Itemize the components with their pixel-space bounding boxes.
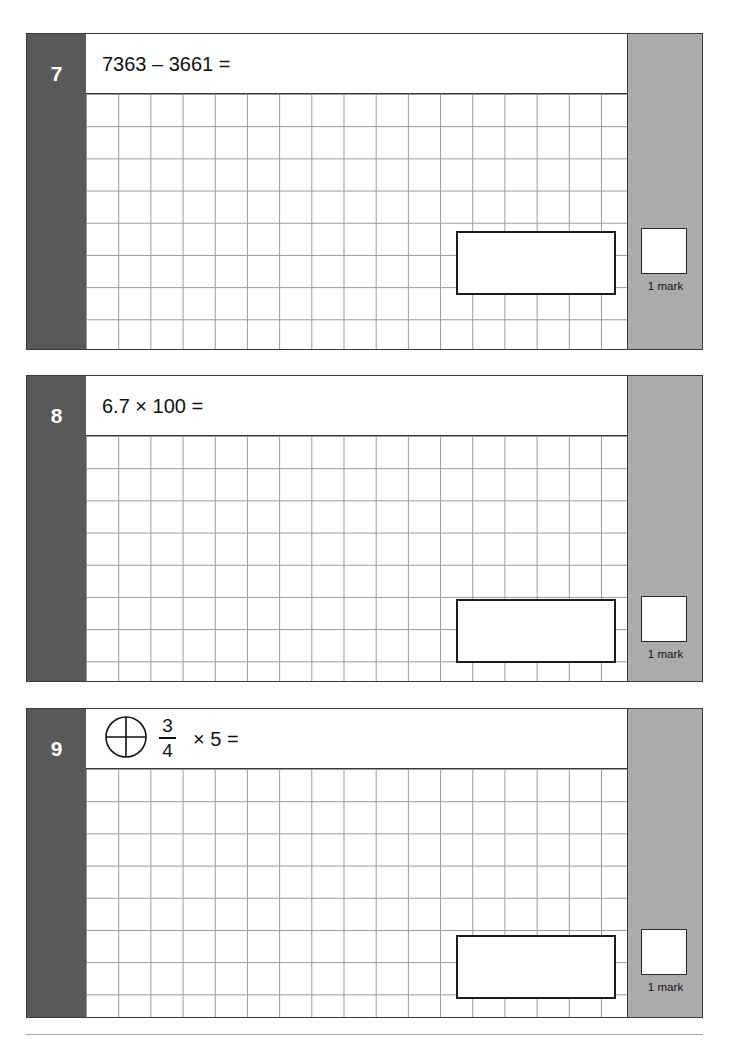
question-7-mark-column: 1 mark xyxy=(627,34,702,349)
question-9-mark-label: 1 mark xyxy=(628,981,703,993)
fraction-numerator: 3 xyxy=(162,716,173,736)
question-9-expression: 3 4 × 5 = xyxy=(102,713,239,766)
fraction-denominator: 4 xyxy=(162,740,173,760)
question-7-frame: 7 7363 – 3661 = 1 mark xyxy=(26,33,703,350)
question-9-number-column: 9 xyxy=(27,709,86,1017)
question-8-number: 8 xyxy=(27,404,86,428)
question-8-mark-box[interactable] xyxy=(641,596,687,642)
question-7-header: 7363 – 3661 = xyxy=(86,34,627,94)
question-7-mark-box[interactable] xyxy=(641,228,687,274)
question-8-mark-label: 1 mark xyxy=(628,648,703,660)
question-7-working-grid[interactable] xyxy=(86,94,627,349)
question-panel-8: 8 6.7 × 100 = 1 mark xyxy=(26,375,703,682)
question-8-number-column: 8 xyxy=(27,376,86,681)
question-8-mark-column: 1 mark xyxy=(627,376,702,681)
question-9-header: 3 4 × 5 = xyxy=(86,709,627,769)
question-7-mark-label: 1 mark xyxy=(628,280,703,292)
question-7-text: 7363 – 3661 = xyxy=(102,34,230,94)
question-8-working-grid[interactable] xyxy=(86,436,627,681)
question-9-text: 3 4 × 5 = xyxy=(102,709,239,769)
fraction-three-quarters: 3 4 xyxy=(159,716,176,761)
question-panel-9: 9 3 xyxy=(26,708,703,1018)
question-7-number-column: 7 xyxy=(27,34,86,349)
question-9-mark-column: 1 mark xyxy=(627,709,702,1017)
question-9-frame: 9 3 xyxy=(26,708,703,1018)
question-9-mark-box[interactable] xyxy=(641,929,687,975)
fraction-bar xyxy=(159,737,176,739)
question-8-text: 6.7 × 100 = xyxy=(102,376,203,436)
question-7-answer-box[interactable] xyxy=(456,231,616,295)
question-8-header: 6.7 × 100 = xyxy=(86,376,627,436)
question-8-frame: 8 6.7 × 100 = 1 mark xyxy=(26,375,703,682)
question-8-answer-box[interactable] xyxy=(456,599,616,663)
question-9-working-grid[interactable] xyxy=(86,769,627,1017)
question-7-number: 7 xyxy=(27,62,86,86)
question-9-answer-box[interactable] xyxy=(456,935,616,999)
worksheet-page: 7 7363 – 3661 = 1 mark 8 6.7 × 100 = xyxy=(0,0,729,1048)
quartered-circle-icon xyxy=(102,713,150,766)
question-9-expression-tail: × 5 = xyxy=(193,728,239,751)
question-panel-7: 7 7363 – 3661 = 1 mark xyxy=(26,33,703,350)
footer-divider xyxy=(26,1034,703,1035)
question-9-number: 9 xyxy=(27,737,86,761)
